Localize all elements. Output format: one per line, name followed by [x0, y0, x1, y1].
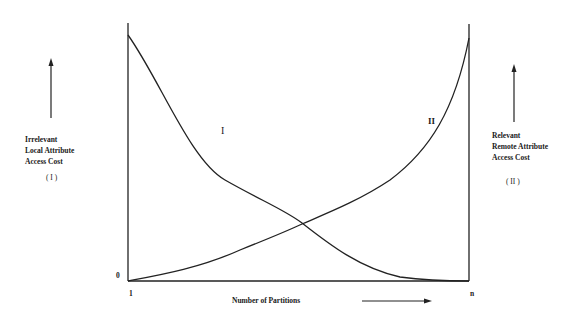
- left-ylabel-line3: Access Cost: [25, 156, 63, 168]
- curve-I-label: I: [221, 125, 224, 136]
- origin-label: 0: [116, 270, 120, 282]
- x-arrow-icon: [424, 299, 432, 304]
- left-ylabel-tag: ( I ): [46, 172, 57, 184]
- left-arrow-icon: [49, 58, 54, 66]
- x-axis-label: Number of Partitions: [232, 295, 300, 307]
- curve-II-label: II: [428, 116, 435, 126]
- curve-I: [128, 35, 469, 281]
- right-arrow-icon: [512, 64, 517, 72]
- x-start-label: 1: [129, 288, 133, 300]
- x-end-label: n: [470, 288, 474, 300]
- right-ylabel-tag: ( II ): [506, 176, 520, 188]
- curve-II: [128, 38, 469, 281]
- right-ylabel-line3: Access Cost: [492, 152, 530, 164]
